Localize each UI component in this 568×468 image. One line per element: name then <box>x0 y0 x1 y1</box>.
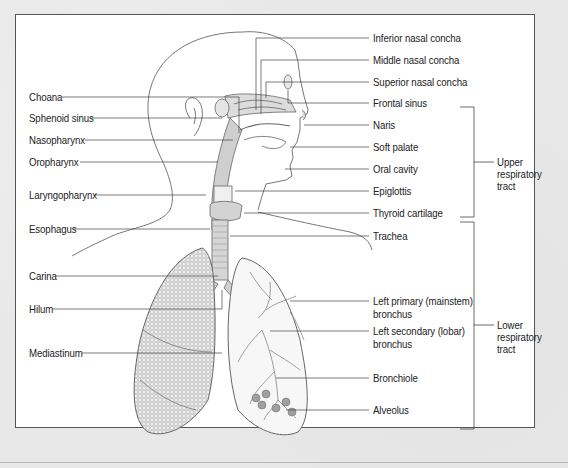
respiratory-illustration <box>0 0 568 468</box>
label-middle-nasal-concha: Middle nasal concha <box>373 54 459 66</box>
label-hilum: Hilum <box>29 303 53 315</box>
label-inferior-nasal-concha: Inferior nasal concha <box>373 32 461 44</box>
label-laryngopharynx: Laryngopharynx <box>29 189 97 201</box>
label-choana: Choana <box>29 91 62 103</box>
label-sphenoid-sinus: Sphenoid sinus <box>29 112 94 124</box>
label-bronchiole: Bronchiole <box>373 372 418 384</box>
label-epiglottis: Epiglottis <box>373 185 411 197</box>
group-upper-line1: Upper <box>497 156 523 168</box>
ear <box>186 98 203 136</box>
left-lung <box>228 258 307 435</box>
label-alveolus: Alveolus <box>373 404 409 416</box>
label-superior-nasal-concha: Superior nasal concha <box>373 76 467 88</box>
label-trachea: Trachea <box>373 230 407 242</box>
label-thyroid-cartilage: Thyroid cartilage <box>373 207 443 219</box>
label-mediastinum: Mediastinum <box>29 347 83 359</box>
label-frontal-sinus: Frontal sinus <box>373 97 427 109</box>
label-left-primary-bronchus-line2: bronchus <box>373 308 412 320</box>
label-oral-cavity: Oral cavity <box>373 163 418 175</box>
bracket-upper <box>460 107 494 217</box>
group-lower-line3: tract <box>497 343 515 355</box>
group-lower-line2: respiratory <box>497 331 542 343</box>
label-left-secondary-bronchus-line1: Left secondary (lobar) <box>373 325 465 337</box>
label-carina: Carina <box>29 270 57 282</box>
label-nasopharynx: Nasopharynx <box>29 134 85 146</box>
label-soft-palate: Soft palate <box>373 141 418 153</box>
group-lower-line1: Lower <box>497 319 523 331</box>
label-naris: Naris <box>373 119 395 131</box>
group-upper-line3: tract <box>497 180 515 192</box>
label-oropharynx: Oropharynx <box>29 156 79 168</box>
label-esophagus: Esophagus <box>29 223 77 235</box>
bracket-lower <box>460 222 494 429</box>
label-left-secondary-bronchus-line2: bronchus <box>373 338 412 350</box>
group-upper-line2: respiratory <box>497 168 542 180</box>
label-left-primary-bronchus-line1: Left primary (mainstem) <box>373 295 473 307</box>
